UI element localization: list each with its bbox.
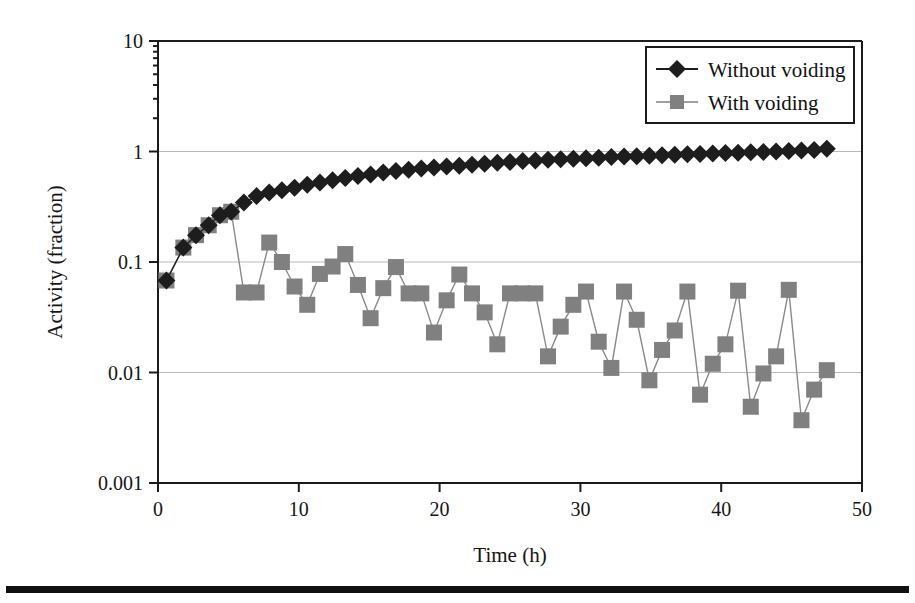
data-point-square bbox=[616, 284, 632, 300]
data-point-square bbox=[654, 342, 670, 358]
x-tick-label: 10 bbox=[289, 498, 309, 520]
data-point-square bbox=[755, 365, 771, 381]
data-point-square bbox=[489, 336, 505, 352]
data-point-square bbox=[287, 279, 303, 295]
data-point-square bbox=[793, 412, 809, 428]
y-tick-label: 0.01 bbox=[108, 362, 143, 384]
legend-marker-square bbox=[670, 95, 684, 109]
y-tick-label: 0.001 bbox=[98, 472, 143, 494]
y-axis-title: Activity (fraction) bbox=[43, 185, 67, 338]
data-point-square bbox=[743, 399, 759, 415]
x-tick-label: 0 bbox=[153, 498, 163, 520]
activity-log-chart: 1010.10.010.001 01020304050 Activity (fr… bbox=[0, 0, 915, 603]
data-point-square bbox=[679, 284, 695, 300]
data-point-square bbox=[413, 285, 429, 301]
data-point-square bbox=[806, 382, 822, 398]
data-point-square bbox=[603, 360, 619, 376]
y-tick-label: 0.1 bbox=[118, 251, 143, 273]
x-tick-label: 50 bbox=[852, 498, 872, 520]
chart-legend[interactable]: Without voidingWith voiding bbox=[646, 47, 854, 123]
data-point-square bbox=[451, 267, 467, 283]
data-point-square bbox=[578, 284, 594, 300]
legend-label: With voiding bbox=[708, 91, 819, 115]
data-point-square bbox=[717, 336, 733, 352]
x-tick-label: 20 bbox=[430, 498, 450, 520]
page-divider-rule bbox=[6, 586, 909, 593]
data-point-square bbox=[540, 348, 556, 364]
data-point-square bbox=[477, 304, 493, 320]
data-point-square bbox=[426, 325, 442, 341]
data-point-square bbox=[641, 372, 657, 388]
x-tick-label: 40 bbox=[711, 498, 731, 520]
data-point-square bbox=[375, 280, 391, 296]
x-axis-title: Time (h) bbox=[473, 543, 546, 567]
data-point-square bbox=[439, 292, 455, 308]
data-point-square bbox=[274, 254, 290, 270]
data-point-square bbox=[781, 282, 797, 298]
data-point-square bbox=[819, 362, 835, 378]
data-point-square bbox=[768, 348, 784, 364]
data-point-square bbox=[591, 334, 607, 350]
data-point-square bbox=[249, 284, 265, 300]
y-tick-label: 10 bbox=[123, 30, 143, 52]
data-point-square bbox=[363, 310, 379, 326]
data-point-square bbox=[299, 297, 315, 313]
data-point-square bbox=[553, 319, 569, 335]
data-point-square bbox=[261, 235, 277, 251]
data-point-square bbox=[337, 246, 353, 262]
data-point-square bbox=[464, 285, 480, 301]
chart-figure: 1010.10.010.001 01020304050 Activity (fr… bbox=[0, 0, 915, 603]
data-point-square bbox=[527, 285, 543, 301]
x-tick-label: 30 bbox=[570, 498, 590, 520]
data-point-square bbox=[730, 283, 746, 299]
data-point-square bbox=[692, 387, 708, 403]
data-point-square bbox=[388, 259, 404, 275]
data-point-square bbox=[667, 322, 683, 338]
data-point-square bbox=[350, 277, 366, 293]
data-point-square bbox=[705, 356, 721, 372]
legend-label: Without voiding bbox=[708, 58, 846, 82]
data-point-square bbox=[629, 312, 645, 328]
y-tick-label: 1 bbox=[133, 141, 143, 163]
